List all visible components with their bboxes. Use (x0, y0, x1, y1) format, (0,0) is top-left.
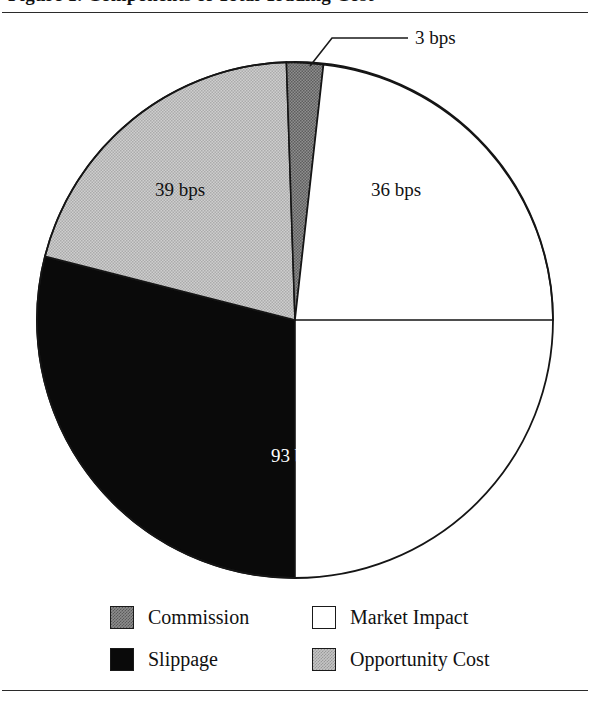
legend-swatch-market-impact-icon (312, 606, 336, 629)
figure-container: Figure 1. Components of Total Trading Co… (0, 0, 590, 706)
legend-item-opportunity-cost[interactable]: Opportunity Cost (312, 648, 489, 671)
legend-label-opportunity-cost: Opportunity Cost (350, 648, 489, 671)
callout-leader-line (310, 38, 408, 66)
pie-chart-svg: 3 bps 36 bps 93 bps 39 bps (0, 18, 590, 598)
legend-label-slippage: Slippage (148, 648, 218, 671)
legend-item-market-impact[interactable]: Market Impact (312, 606, 468, 629)
legend-item-commission[interactable]: Commission (110, 606, 249, 629)
slice-label-opportunity-cost: 39 bps (155, 179, 205, 200)
pie-slice-market-impact[interactable] (295, 65, 553, 320)
figure-caption-clipped: Figure 1. Components of Total Trading Co… (0, 0, 590, 12)
legend: Commission Market Impact Slippage Opport… (110, 606, 510, 684)
legend-swatch-commission-icon (110, 606, 134, 629)
legend-swatch-opportunity-cost-icon (312, 648, 336, 671)
slice-label-slippage: 93 bps (271, 445, 321, 466)
slice-label-commission: 3 bps (415, 27, 456, 48)
pie-chart: 3 bps 36 bps 93 bps 39 bps (0, 18, 590, 598)
figure-top-rule (2, 12, 588, 13)
legend-item-slippage[interactable]: Slippage (110, 648, 218, 671)
figure-caption-text: Figure 1. Components of Total Trading Co… (8, 0, 374, 6)
legend-swatch-slippage-icon (110, 648, 134, 671)
legend-label-commission: Commission (148, 606, 249, 629)
slice-label-market-impact: 36 bps (371, 179, 421, 200)
legend-label-market-impact: Market Impact (350, 606, 468, 629)
figure-bottom-rule (2, 690, 588, 691)
